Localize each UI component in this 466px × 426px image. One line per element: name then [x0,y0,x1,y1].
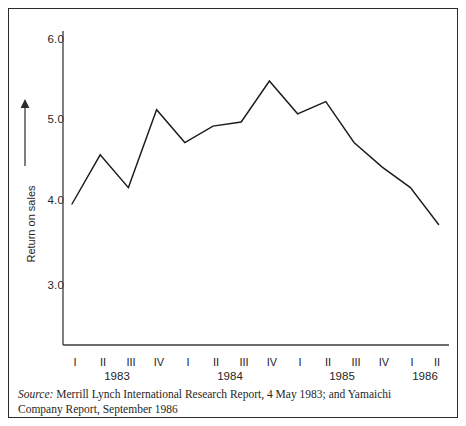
x-tick-1984-q3: III [229,357,259,368]
x-tick-1983-q3: III [116,357,146,368]
x-tick-1985-q1: I [285,357,315,368]
source-text: Merrill Lynch International Research Rep… [18,388,391,415]
x-tick-1985-q4: IV [369,357,399,368]
x-axis-labels: I II III IV I II III IV I II III IV I II… [0,0,466,426]
x-tick-1985-q3: III [341,357,371,368]
x-tick-1983-q2: II [88,357,118,368]
x-year-1986: 1986 [395,371,455,383]
x-tick-1986-q2: II [422,357,452,368]
x-year-1984: 1984 [200,371,260,383]
x-tick-1984-q4: IV [257,357,287,368]
figure-container: 6.0 5.0 4.0 3.0 Return on sales I II III… [0,0,466,426]
x-year-1985: 1985 [312,371,372,383]
x-tick-1984-q2: II [201,357,231,368]
x-tick-1983-q4: IV [144,357,174,368]
source-label: Source: [18,388,53,400]
source-note: Source: Merrill Lynch International Rese… [18,387,438,417]
x-tick-1984-q1: I [173,357,203,368]
x-tick-1983-q1: I [60,357,90,368]
x-tick-1985-q2: II [313,357,343,368]
x-year-1983: 1983 [87,371,147,383]
